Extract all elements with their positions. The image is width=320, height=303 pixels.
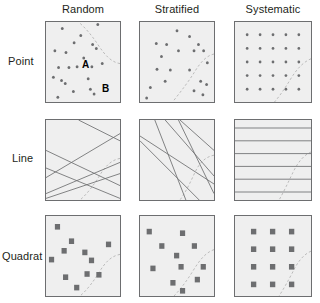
point-markers xyxy=(52,23,104,99)
region-label-b: B xyxy=(102,84,109,94)
panel-point-systematic xyxy=(234,21,312,103)
panel-line-stratified xyxy=(139,119,215,201)
panel-quadrat-stratified xyxy=(139,215,215,297)
line-transects xyxy=(140,120,214,200)
point-markers xyxy=(145,29,208,99)
quadrat-markers xyxy=(49,224,111,290)
panel-point-random: A B xyxy=(45,21,121,103)
panel-point-stratified xyxy=(139,21,215,103)
panel-line-random xyxy=(45,119,121,201)
quadrat-markers xyxy=(147,229,206,294)
row-label-line: Line xyxy=(12,152,33,165)
panel-quadrat-random xyxy=(45,215,121,297)
row-label-quadrat: Quadrat xyxy=(2,250,42,263)
point-markers xyxy=(246,33,300,90)
panel-quadrat-systematic xyxy=(234,215,312,297)
column-header-stratified: Stratified xyxy=(139,3,215,16)
row-label-point: Point xyxy=(8,55,34,68)
column-header-random: Random xyxy=(45,3,121,16)
region-boundary-curve xyxy=(275,59,311,102)
panel-line-systematic-plot xyxy=(235,120,311,200)
sampling-designs-figure: Random Stratified Systematic Point Line … xyxy=(0,0,320,303)
panel-line-stratified-plot xyxy=(140,120,214,200)
region-boundary-curve xyxy=(279,152,311,200)
panel-line-systematic xyxy=(234,119,312,201)
panel-point-systematic-plot xyxy=(235,22,311,102)
line-transects xyxy=(46,120,120,198)
panel-line-random-plot xyxy=(46,120,120,200)
quadrat-markers xyxy=(251,229,294,287)
region-boundary-curve xyxy=(180,155,214,200)
panel-quadrat-random-plot xyxy=(46,216,120,296)
panel-quadrat-stratified-plot xyxy=(140,216,214,296)
line-transects xyxy=(235,128,311,192)
panel-quadrat-systematic-plot xyxy=(235,216,311,296)
region-label-a: A xyxy=(82,60,89,70)
column-header-systematic: Systematic xyxy=(234,3,312,16)
panel-point-stratified-plot xyxy=(140,22,214,102)
region-boundary-curve xyxy=(173,54,214,102)
region-boundary-curve xyxy=(279,251,311,296)
